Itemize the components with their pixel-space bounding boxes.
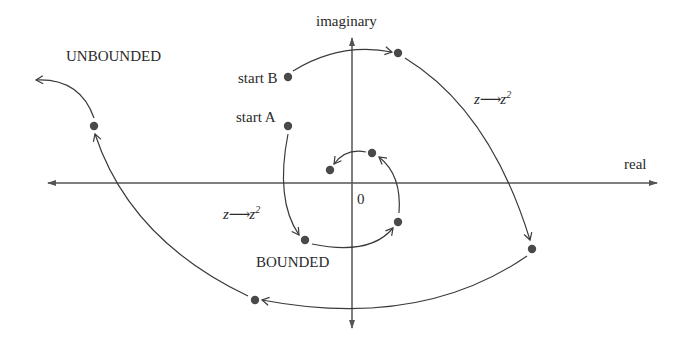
start-b-point xyxy=(284,73,292,81)
start-a-point xyxy=(284,122,292,130)
real-axis-label: real xyxy=(624,157,646,172)
origin-label: 0 xyxy=(357,192,365,207)
imaginary-axis-label: imaginary xyxy=(316,14,377,29)
unbounded-label: UNBOUNDED xyxy=(66,49,161,64)
orbit-a-arrows xyxy=(283,134,399,248)
orbit-point xyxy=(394,218,402,226)
start-b-label: start B xyxy=(238,71,278,86)
orbit-point xyxy=(394,49,402,57)
start-a-label: start A xyxy=(236,110,276,125)
orbit-point xyxy=(528,245,536,253)
orbit-point xyxy=(90,122,98,130)
map-label-upper: z⟶z2 xyxy=(474,90,511,107)
orbit-point xyxy=(368,149,376,157)
map-label-lower: z⟶z2 xyxy=(223,205,260,222)
orbit-point xyxy=(326,166,334,174)
orbit-point xyxy=(301,236,309,244)
orbit-point xyxy=(251,296,259,304)
bounded-label: BOUNDED xyxy=(256,255,329,270)
